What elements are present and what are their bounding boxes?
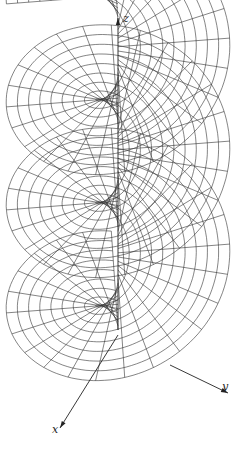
y-axis-label: y [222,381,228,392]
x-axis-label: x [52,424,58,435]
y-axis [170,365,228,393]
helicoid-figure [0,0,242,450]
x-axis [60,335,118,428]
z-axis-label: z [123,13,129,24]
x-axis-arrowhead-icon [60,421,66,428]
